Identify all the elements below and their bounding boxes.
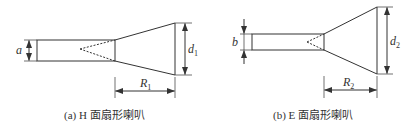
h-plane-horn xyxy=(24,23,192,98)
horn-top-edge xyxy=(115,23,175,40)
label-r1: R1 xyxy=(139,76,151,92)
waveguide-b xyxy=(252,34,324,50)
label-d2: d2 xyxy=(390,34,400,50)
dashed-apex-top xyxy=(80,40,115,49)
caption-h-plane: (a) H 面扇形喇叭 xyxy=(64,106,145,122)
horn-bottom-edge xyxy=(324,50,377,74)
dashed-apex-bottom xyxy=(307,42,324,50)
label-b: b xyxy=(232,35,238,49)
horn-top-edge xyxy=(324,7,377,34)
label-a: a xyxy=(16,43,22,57)
dashed-apex-top xyxy=(307,34,324,42)
label-r2: R2 xyxy=(342,75,354,91)
dashed-apex-bottom xyxy=(80,49,115,61)
e-plane-horn xyxy=(240,7,393,98)
horn-bottom-edge xyxy=(115,61,175,75)
horn-diagrams: a d1 R1 b d2 R2 xyxy=(0,0,419,130)
caption-e-plane: (b) E 面扇形喇叭 xyxy=(273,106,353,122)
waveguide-a xyxy=(37,40,115,61)
label-d1: d1 xyxy=(188,42,198,58)
